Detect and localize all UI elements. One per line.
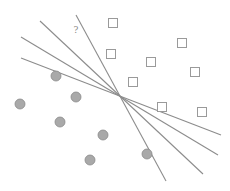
class-squares <box>107 19 207 117</box>
diagram-canvas: ? <box>0 0 230 191</box>
unknown-point-label: ? <box>74 25 79 35</box>
square-point <box>147 58 156 67</box>
separating-lines <box>21 15 221 181</box>
circle-point <box>15 99 25 109</box>
square-point <box>198 108 207 117</box>
square-point <box>158 103 167 112</box>
circle-point <box>55 117 65 127</box>
circle-point <box>71 92 81 102</box>
square-point <box>107 50 116 59</box>
square-point <box>129 78 138 87</box>
square-point <box>191 68 200 77</box>
svm-hyperplanes-diagram: ? <box>0 0 230 191</box>
square-point <box>109 19 118 28</box>
circle-point <box>98 130 108 140</box>
square-point <box>178 39 187 48</box>
circle-point <box>51 71 61 81</box>
circle-point <box>85 155 95 165</box>
circle-point <box>142 149 152 159</box>
